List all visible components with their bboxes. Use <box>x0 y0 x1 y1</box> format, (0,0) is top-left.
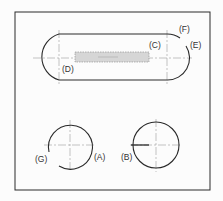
left-circle-centerlines <box>44 120 96 172</box>
label-a: (A) <box>94 152 106 162</box>
label-g: (G) <box>35 154 47 164</box>
label-d: (D) <box>62 64 74 74</box>
label-f: (F) <box>179 24 190 34</box>
drawing-canvas: (F) (E) (C) (D) (G) (A) (B) <box>0 0 223 201</box>
label-b: (B) <box>121 152 133 162</box>
label-c: (C) <box>149 40 161 50</box>
left-circle-arc <box>48 125 92 169</box>
label-e: (E) <box>190 40 202 50</box>
